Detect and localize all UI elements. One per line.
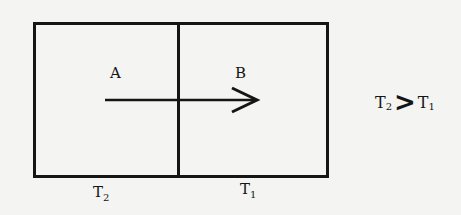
region-a-temperature: T2 (93, 185, 109, 200)
greater-than-icon: > (394, 87, 416, 117)
temperature-relation: T2 > T1 (375, 87, 435, 117)
region-b-temperature: T1 (240, 182, 256, 197)
